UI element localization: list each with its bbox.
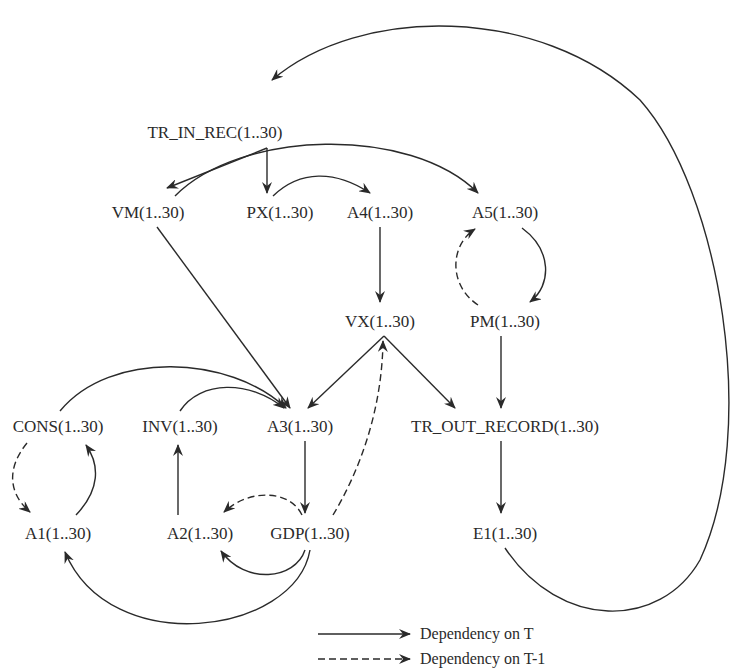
node-a5: A5(1..30) (472, 204, 538, 221)
edge-inv-to-a3 (180, 387, 284, 411)
node-pm: PM(1..30) (470, 313, 540, 330)
edge-cons-to-a3 (60, 367, 286, 411)
edge-vx-to-tr-out-record (384, 336, 455, 408)
edge-gdp-to-a2-t1 (224, 495, 302, 515)
edges-layer (0, 0, 733, 672)
legend-solid-label: Dependency on T (420, 626, 533, 642)
edge-gdp-to-a2-t (221, 550, 305, 575)
node-a1: A1(1..30) (25, 525, 91, 542)
node-e1: E1(1..30) (473, 525, 537, 542)
node-a3: A3(1..30) (267, 418, 333, 435)
edge-gdp-to-a1 (65, 550, 310, 624)
node-a2: A2(1..30) (167, 525, 233, 542)
edge-a5-to-pm (522, 228, 546, 302)
edge-vm-to-a3 (157, 227, 290, 408)
dependency-diagram: TR_IN_REC(1..30) VM(1..30) PX(1..30) A4(… (0, 0, 733, 672)
node-gdp: GDP(1..30) (270, 525, 349, 542)
edge-a1-to-cons (76, 445, 95, 515)
node-inv: INV(1..30) (142, 418, 218, 435)
node-vm: VM(1..30) (112, 204, 185, 221)
node-vx: VX(1..30) (345, 313, 415, 330)
node-a4: A4(1..30) (347, 204, 413, 221)
edge-vm-to-a5 (175, 144, 478, 196)
node-tr-out-record: TR_OUT_RECORD(1..30) (411, 418, 599, 435)
edge-cons-to-a1 (13, 443, 30, 512)
node-tr-in-rec: TR_IN_REC(1..30) (147, 124, 282, 141)
edge-gdp-to-vx (333, 341, 383, 515)
edge-px-to-a4 (273, 176, 370, 196)
node-cons: CONS(1..30) (13, 418, 104, 435)
legend-dashed-label: Dependency on T-1 (420, 651, 545, 667)
edge-pm-to-a5 (456, 229, 478, 305)
edge-vx-to-a3 (308, 336, 384, 408)
node-px: PX(1..30) (246, 204, 313, 221)
